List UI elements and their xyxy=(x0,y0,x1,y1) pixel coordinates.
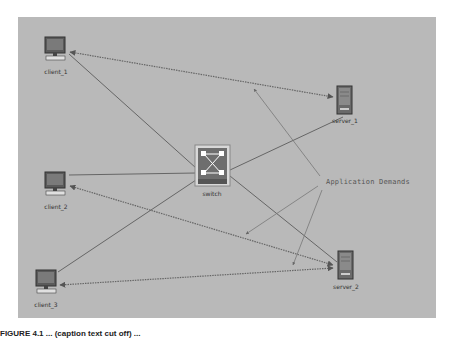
node-label-client3: client_3 xyxy=(34,301,57,308)
demand-client3-server2[interactable] xyxy=(60,268,333,285)
link-client3-switch[interactable] xyxy=(58,180,196,272)
switch-icon[interactable] xyxy=(195,145,230,186)
demand-client2-server2[interactable] xyxy=(70,186,333,265)
server-icon[interactable] xyxy=(338,251,353,279)
node-label-switch: switch xyxy=(202,190,221,197)
workstation-icon[interactable] xyxy=(36,270,56,293)
node-label-client2: client_2 xyxy=(44,203,67,210)
workstation-icon[interactable] xyxy=(45,172,65,195)
node-label-client1: client_1 xyxy=(44,68,67,75)
application-demands-annotation: Application Demands xyxy=(326,178,410,186)
figure-caption: FIGURE 4.1 ... (caption text cut off) ..… xyxy=(0,329,140,338)
server-icon[interactable] xyxy=(337,86,352,114)
link-layer xyxy=(0,0,454,341)
link-client2-switch[interactable] xyxy=(69,173,196,175)
workstation-icon[interactable] xyxy=(45,37,65,60)
link-client1-switch[interactable] xyxy=(69,54,196,168)
annotation-arrow-3 xyxy=(293,190,322,265)
annotation-arrow-2 xyxy=(246,186,318,234)
link-switch-server1[interactable] xyxy=(230,117,343,170)
node-label-server1: server_1 xyxy=(332,117,358,124)
node-label-server2: server_2 xyxy=(333,283,359,290)
link-switch-server2[interactable] xyxy=(230,176,337,262)
